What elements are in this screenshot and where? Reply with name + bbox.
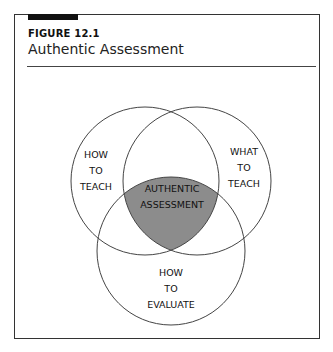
- svg-text:TEACH: TEACH: [79, 181, 112, 192]
- svg-text:HOW: HOW: [84, 149, 109, 160]
- svg-text:HOW: HOW: [159, 267, 184, 278]
- svg-text:TEACH: TEACH: [227, 178, 260, 189]
- svg-text:ASSESSMENT: ASSESSMENT: [140, 199, 204, 210]
- venn-diagram: HOW TO TEACH WHAT TO TEACH AUTHENTIC ASS…: [0, 0, 333, 352]
- label-how-to-teach: HOW TO TEACH: [79, 149, 112, 192]
- label-how-to-evaluate: HOW TO EVALUATE: [147, 267, 195, 310]
- svg-text:TO: TO: [88, 165, 102, 176]
- svg-text:TO: TO: [236, 162, 250, 173]
- svg-text:AUTHENTIC: AUTHENTIC: [145, 183, 200, 194]
- label-what-to-teach: WHAT TO TEACH: [227, 146, 260, 189]
- svg-text:TO: TO: [163, 283, 177, 294]
- svg-text:EVALUATE: EVALUATE: [147, 299, 195, 310]
- svg-text:WHAT: WHAT: [230, 146, 258, 157]
